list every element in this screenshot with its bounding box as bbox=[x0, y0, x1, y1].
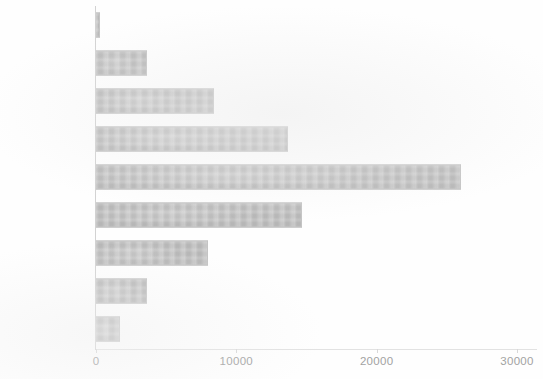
chart-row: 70 and over bbox=[96, 310, 517, 348]
chart-row: 21-24 bbox=[96, 82, 517, 120]
bar-70-and-over bbox=[96, 317, 120, 342]
bar-18-20 bbox=[96, 51, 147, 76]
bar-60-69 bbox=[96, 279, 147, 304]
x-axis-tick bbox=[236, 349, 237, 353]
x-axis-tick bbox=[96, 349, 97, 353]
chart-row: 60-69 bbox=[96, 272, 517, 310]
bar-25-29 bbox=[96, 127, 288, 152]
chart-row: 40-49 bbox=[96, 196, 517, 234]
x-axis-tick-label: 20000 bbox=[360, 355, 393, 367]
x-axis-tick bbox=[517, 349, 518, 353]
bar-50-59 bbox=[96, 241, 208, 266]
bar-chart-figure: 15-1718-2021-2425-2930-3940-4950-5960-69… bbox=[0, 0, 543, 379]
x-axis-tick-label: 30000 bbox=[500, 355, 533, 367]
chart-row: 25-29 bbox=[96, 120, 517, 158]
x-axis-line bbox=[96, 349, 537, 350]
chart-row: 30-39 bbox=[96, 158, 517, 196]
bar-15-17 bbox=[96, 13, 100, 38]
bar-40-49 bbox=[96, 203, 302, 228]
chart-row: 50-59 bbox=[96, 234, 517, 272]
chart-row: 18-20 bbox=[96, 44, 517, 82]
chart-row: 15-17 bbox=[96, 6, 517, 44]
y-axis-line bbox=[95, 6, 96, 350]
x-axis-tick-label: 0 bbox=[93, 355, 100, 367]
plot-area: 15-1718-2021-2425-2930-3940-4950-5960-69… bbox=[96, 6, 517, 348]
bar-21-24 bbox=[96, 89, 214, 114]
x-axis-tick bbox=[377, 349, 378, 353]
x-axis-tick-label: 10000 bbox=[220, 355, 253, 367]
bar-30-39 bbox=[96, 165, 461, 190]
